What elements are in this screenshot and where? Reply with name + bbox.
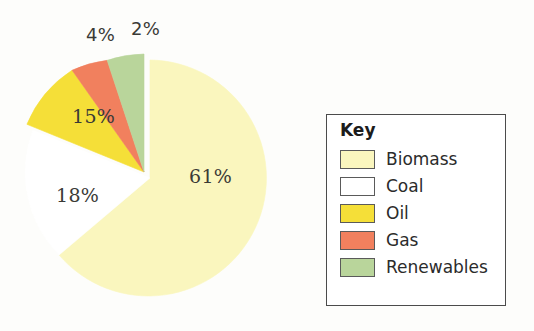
pie-label-biomass: 61%	[189, 167, 232, 186]
legend-label-biomass: Biomass	[386, 151, 457, 168]
legend-item-oil: Oil	[340, 200, 505, 227]
legend-item-biomass: Biomass	[340, 146, 505, 173]
legend-title: Key	[340, 122, 505, 139]
legend-swatch-coal	[340, 177, 375, 196]
legend-swatch-biomass	[340, 150, 375, 169]
legend-label-renewables: Renewables	[386, 259, 488, 276]
legend-label-coal: Coal	[386, 178, 423, 195]
pie-label-gas: 4%	[86, 26, 115, 44]
pie-label-oil: 15%	[72, 107, 115, 126]
pie-label-coal: 18%	[56, 186, 99, 205]
legend-item-gas: Gas	[340, 227, 505, 254]
legend-box: Key Biomass Coal Oil Gas Renewables	[326, 114, 506, 306]
legend-swatch-renewables	[340, 258, 375, 277]
legend-label-gas: Gas	[386, 232, 418, 249]
pie-label-renewables: 2%	[131, 20, 160, 38]
legend-item-renewables: Renewables	[340, 254, 505, 281]
legend-swatch-oil	[340, 204, 375, 223]
legend-label-oil: Oil	[386, 205, 409, 222]
legend-swatch-gas	[340, 231, 375, 250]
pie-chart: 61% 18% 15% 4% 2% Key Biomass Coal Oil G…	[0, 0, 534, 331]
legend-item-coal: Coal	[340, 173, 505, 200]
